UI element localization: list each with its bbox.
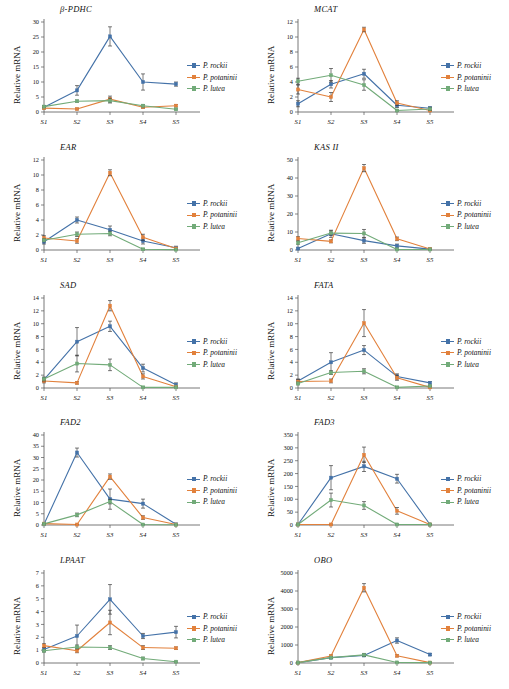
x-tick-label: S1 [295, 669, 302, 676]
data-point-marker [141, 374, 144, 377]
y-tick-label: 0 [36, 246, 39, 253]
legend-item: P. potaninii [187, 209, 237, 221]
data-point-marker [395, 523, 398, 526]
data-point-marker [141, 657, 144, 660]
data-point-marker [141, 80, 144, 83]
y-tick-label: 0 [36, 522, 39, 529]
legend-label: P. rockii [457, 336, 481, 348]
data-point-marker [108, 598, 111, 601]
legend-marker-icon [441, 200, 454, 207]
y-tick-label: 15 [33, 63, 39, 70]
legend-label: P. potaninii [203, 72, 237, 84]
chart-legend: P. rockiiP. potaniniiP. lutea [187, 60, 237, 95]
data-point-marker [362, 653, 365, 656]
legend-marker-icon [187, 487, 200, 494]
y-tick-label: 30 [287, 192, 293, 199]
data-point-marker [141, 104, 144, 107]
legend-label: P. lutea [203, 496, 225, 508]
x-tick-label: S3 [361, 255, 368, 262]
data-point-marker [329, 476, 332, 479]
data-point-marker [329, 499, 332, 502]
chart-legend: P. rockiiP. potaniniiP. lutea [187, 473, 237, 508]
legend-label: P. rockii [457, 473, 481, 485]
legend-item: P. lutea [187, 221, 237, 233]
legend-item: P. potaninii [441, 623, 491, 635]
data-point-marker [395, 661, 398, 664]
legend-label: P. potaninii [457, 485, 491, 497]
data-point-marker [75, 646, 78, 649]
data-point-marker [329, 240, 332, 243]
chart-panel-fad2: FAD2Relative mRNA0510152025303540S1S2S3S… [0, 413, 254, 551]
legend-item: P. potaninii [441, 72, 491, 84]
legend-label: P. lutea [457, 359, 479, 371]
x-tick-label: S5 [427, 669, 434, 676]
data-point-marker [174, 524, 177, 527]
chart-legend: P. rockiiP. potaniniiP. lutea [441, 60, 491, 95]
panel-grid: β-PDHCRelative mRNA051015202530S1S2S3S4S… [0, 0, 509, 689]
chart-panel-ear: EARRelative mRNA024681012S1S2S3S4S5P. ro… [0, 138, 254, 276]
legend-label: P. lutea [457, 634, 479, 646]
legend-marker-icon [441, 338, 454, 345]
y-tick-label: 25 [33, 465, 39, 472]
y-tick-label: 4 [290, 358, 294, 365]
data-point-marker [428, 653, 431, 656]
x-tick-label: S5 [427, 393, 434, 400]
legend-item: P. lutea [187, 634, 237, 646]
y-tick-label: 35 [33, 443, 39, 450]
x-tick-label: S5 [173, 531, 180, 538]
data-point-marker [395, 244, 398, 247]
legend-marker-icon [187, 613, 200, 620]
y-tick-label: 0 [290, 246, 293, 253]
data-point-marker [75, 649, 78, 652]
legend-label: P. rockii [203, 611, 227, 623]
legend-marker-icon [187, 74, 200, 81]
y-tick-label: 12 [287, 18, 293, 25]
legend-item: P. lutea [187, 496, 237, 508]
y-tick-label: 15 [33, 488, 39, 495]
data-point-marker [329, 95, 332, 98]
data-point-marker [329, 379, 332, 382]
x-tick-label: S5 [173, 669, 180, 676]
legend-marker-icon [441, 625, 454, 632]
y-tick-label: 3 [36, 621, 39, 628]
x-tick-label: S4 [394, 255, 401, 262]
x-tick-label: S2 [328, 118, 335, 125]
data-point-marker [108, 324, 111, 327]
y-tick-label: 4 [36, 358, 40, 365]
legend-label: P. lutea [203, 83, 225, 95]
data-point-marker [75, 100, 78, 103]
data-point-marker [75, 232, 78, 235]
data-point-marker [75, 218, 78, 221]
legend-label: P. lutea [203, 359, 225, 371]
legend-marker-icon [441, 223, 454, 230]
y-tick-label: 2 [36, 634, 39, 641]
data-point-marker [108, 171, 111, 174]
data-point-marker [362, 321, 365, 324]
legend-item: P. potaninii [441, 347, 491, 359]
y-tick-label: 10 [287, 320, 293, 327]
legend-item: P. lutea [187, 359, 237, 371]
legend-label: P. rockii [203, 473, 227, 485]
x-tick-label: S4 [394, 393, 401, 400]
data-point-marker [75, 523, 78, 526]
legend-marker-icon [441, 476, 454, 483]
legend-item: P. rockii [187, 473, 237, 485]
data-point-marker [108, 621, 111, 624]
x-tick-label: S4 [140, 669, 147, 676]
legend-item: P. rockii [441, 611, 491, 623]
data-point-marker [75, 239, 78, 242]
data-point-marker [108, 646, 111, 649]
y-tick-label: 8 [290, 48, 293, 55]
data-point-marker [108, 228, 111, 231]
y-tick-label: 2000 [280, 623, 293, 630]
legend-marker-icon [187, 636, 200, 643]
y-tick-label: 5 [36, 510, 39, 517]
data-point-marker [362, 369, 365, 372]
y-tick-label: 8 [36, 186, 39, 193]
x-tick-label: S1 [295, 531, 302, 538]
y-tick-label: 2 [290, 371, 293, 378]
legend-item: P. rockii [187, 336, 237, 348]
data-point-marker [395, 109, 398, 112]
data-point-marker [395, 248, 398, 251]
legend-label: P. potaninii [203, 623, 237, 635]
